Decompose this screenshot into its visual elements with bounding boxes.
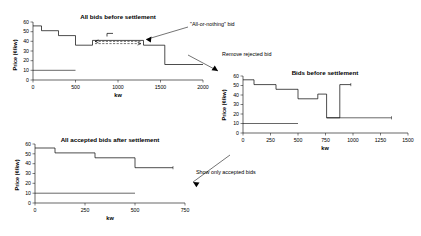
chart3-ytick-50: 50 (25, 151, 31, 157)
chart2-xtick-1250: 1250 (375, 137, 387, 143)
chart3-title: All accepted bids after settlement (61, 136, 160, 143)
chart3-ytick-10: 10 (25, 190, 31, 196)
chart1-ytick-0: 0 (26, 77, 29, 83)
chart2-xtick-1500: 1500 (402, 137, 414, 143)
arrow-remove-rejected-bid: Remove rejected bid (188, 51, 271, 71)
chart3-ylabel: Price (¢/kw) (14, 159, 20, 190)
chart1-xlabel: kw (114, 92, 122, 98)
chart3-y-ticks: 0 10 20 30 40 50 60 (25, 141, 35, 206)
chart1-ylabel: Price (¢/kw) (12, 39, 18, 70)
chart1-ytick-40: 40 (23, 38, 29, 44)
chart3-xtick-0: 0 (34, 207, 37, 213)
chart2-xlabel: kw (321, 145, 329, 151)
chart2-xtick-750: 750 (321, 137, 330, 143)
chart3-xlabel: kw (106, 215, 114, 221)
chart3-xtick-500: 500 (131, 207, 140, 213)
chart1-y-ticks: 0 10 20 30 40 50 60 (23, 19, 33, 83)
chart2-ytick-20: 20 (233, 111, 239, 117)
chart1-ytick-30: 30 (23, 48, 29, 54)
chart-bids-before-settlement: Bids before settlement Price (¢/kw) 0 10… (221, 69, 414, 151)
chart2-xtick-250: 250 (266, 137, 275, 143)
chart2-ytick-50: 50 (233, 82, 239, 88)
chart3-ytick-60: 60 (25, 141, 31, 147)
chart1-ytick-10: 10 (23, 67, 29, 73)
chart2-x-ticks: 0 250 500 750 1000 1250 1500 (242, 133, 414, 143)
chart2-title: Bids before settlement (292, 69, 359, 76)
chart3-ytick-40: 40 (25, 160, 31, 166)
chart3-xtick-750: 750 (181, 207, 190, 213)
chart2-bid-stack (243, 80, 351, 118)
chart1-xtick-2000: 2000 (197, 84, 209, 90)
chart1-x-ticks: 0 500 1000 1500 2000 (32, 80, 209, 90)
all-or-nothing-leader-line (146, 27, 188, 40)
figure-canvas: All bids before settlement Price (¢/kw) … (0, 0, 421, 236)
chart1-title: All bids before settlement (80, 13, 156, 20)
chart1-ytick-50: 50 (23, 28, 29, 34)
chart-all-accepted-bids-after-settlement: All accepted bids after settlement Price… (14, 136, 189, 221)
chart1-bid-stack (33, 26, 203, 65)
chart1-bid-marker-tick (107, 33, 113, 36)
chart3-ytick-30: 30 (25, 170, 31, 176)
chart2-xtick-0: 0 (242, 137, 245, 143)
annotation-remove-rejected-bid: Remove rejected bid (222, 51, 271, 57)
chart2-ytick-10: 10 (233, 120, 239, 126)
chart2-ytick-0: 0 (236, 130, 239, 136)
annotation-show-only-accepted-bids: Show only accepted bids (196, 169, 256, 175)
chart2-y-ticks: 0 10 20 30 40 50 60 (233, 73, 243, 136)
chart1-ytick-60: 60 (23, 19, 29, 25)
chart2-xtick-500: 500 (294, 137, 303, 143)
chart3-ytick-0: 0 (28, 200, 31, 206)
chart-all-bids-before-settlement: All bids before settlement Price (¢/kw) … (12, 13, 235, 98)
chart3-x-ticks: 0 250 500 750 (34, 203, 190, 213)
chart3-xtick-250: 250 (81, 207, 90, 213)
chart3-ytick-20: 20 (25, 180, 31, 186)
arrow-show-only-accepted-bids: Show only accepted bids (193, 155, 256, 187)
chart1-xtick-1500: 1500 (155, 84, 167, 90)
chart1-xtick-0: 0 (32, 84, 35, 90)
chart2-ytick-60: 60 (233, 73, 239, 79)
chart1-xtick-1000: 1000 (112, 84, 124, 90)
chart2-xtick-1000: 1000 (347, 137, 359, 143)
chart2-ytick-40: 40 (233, 92, 239, 98)
arrow2-head (193, 182, 200, 187)
chart1-ytick-20: 20 (23, 57, 29, 63)
chart2-ylabel: Price (¢/kw) (221, 89, 227, 120)
chart3-accepted-stack (35, 148, 173, 168)
all-or-nothing-arrowhead (146, 36, 152, 42)
chart1-xtick-500: 500 (71, 84, 80, 90)
annotation-all-or-nothing: "All-or-nothing" bid (190, 21, 235, 27)
diagram-svg: All bids before settlement Price (¢/kw) … (0, 0, 421, 236)
chart2-ytick-30: 30 (233, 101, 239, 107)
